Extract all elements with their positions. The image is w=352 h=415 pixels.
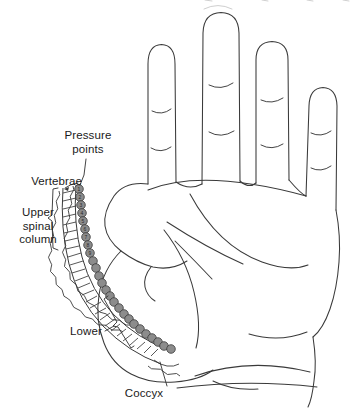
thumb-web-contour: [145, 267, 155, 301]
palm-crease-heart-line: [190, 194, 308, 268]
svg-text:4: 4: [81, 210, 84, 216]
svg-text:9: 9: [89, 250, 92, 256]
pressure-point: [92, 264, 101, 273]
svg-text:5: 5: [82, 218, 85, 224]
svg-text:6: 6: [84, 226, 87, 232]
palm-crease-hypothenar: [249, 332, 307, 338]
hand-outline-group: [98, 0, 349, 407]
middle-finger-outline: [202, 13, 240, 185]
web-crease-index-middle: [176, 182, 202, 187]
label-lower: Lower: [64, 325, 108, 339]
label-pressure-points: Pressure points: [52, 129, 124, 156]
pressure-point: [167, 345, 176, 354]
annotation-leaders: [48, 159, 167, 386]
hand-right-edge: [313, 210, 340, 337]
wrist-left-edge: [213, 381, 258, 389]
label-coccyx: Coccyx: [120, 387, 168, 401]
top-edge-artifacts: [204, 0, 349, 9]
label-vertebrae: Vertebrae: [14, 175, 82, 189]
palm-crease-thenar-inner: [175, 241, 212, 279]
coccyx-tail: [154, 360, 179, 366]
wrist-crease-upper: [195, 365, 310, 376]
knuckle-crease-line: [148, 180, 306, 196]
wrist-crease-lower: [177, 383, 317, 388]
thumb-base-contour: [121, 251, 187, 268]
reflexology-diagram: 1 2 3 4 5 6 7 8 9: [0, 0, 352, 415]
little-finger-outline: [306, 88, 337, 211]
label-upper-spinal-column: Upper spinal column: [10, 206, 66, 247]
index-finger-outline: [148, 45, 176, 185]
svg-text:2: 2: [79, 194, 82, 200]
spinal-inner-wave: [63, 186, 138, 327]
palm-outline: [98, 184, 213, 383]
finger-creases: [151, 83, 331, 170]
svg-text:7: 7: [85, 234, 88, 240]
ring-finger-outline: [256, 42, 289, 184]
palm-crease-head-line: [167, 222, 243, 264]
svg-text:3: 3: [80, 202, 83, 208]
svg-text:8: 8: [87, 242, 90, 248]
spinal-column-overlay: 1 2 3 4 5 6 7 8 9: [49, 185, 181, 376]
